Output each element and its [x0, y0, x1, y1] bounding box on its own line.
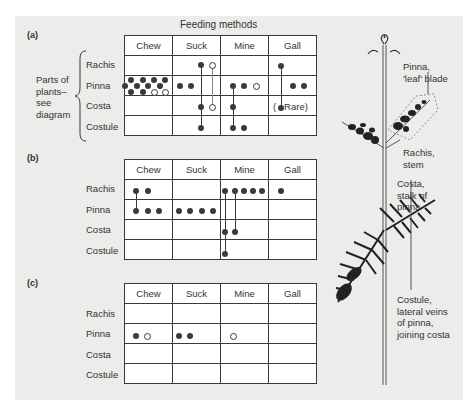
connector-line — [225, 191, 226, 254]
data-dot — [199, 208, 205, 214]
col-header-suck: Suck — [173, 284, 221, 304]
data-dot — [301, 83, 307, 89]
data-dot — [278, 63, 284, 69]
data-dot-open — [151, 89, 158, 96]
panel-a-label: (a) — [27, 30, 38, 40]
row-label-costa: Costa — [86, 224, 111, 235]
col-header-mine: Mine — [221, 284, 269, 304]
costa-label: Costa, stalk of pinna — [397, 178, 427, 213]
data-dot — [222, 188, 228, 194]
data-dot — [187, 333, 193, 339]
data-dot-open — [253, 83, 260, 90]
data-dot — [145, 188, 151, 194]
col-header-chew: Chew — [125, 36, 173, 56]
data-dot-open — [230, 333, 237, 340]
data-dot — [222, 251, 228, 257]
side-label-line: Parts of — [36, 74, 70, 86]
col-header-gall: Gall — [269, 160, 317, 180]
data-dot — [122, 83, 128, 89]
data-dot — [156, 208, 162, 214]
data-dot — [278, 188, 284, 194]
table-b: ChewSuckMineGall — [124, 159, 317, 260]
parts-of-plants-label: Parts of plants– see diagram — [36, 74, 70, 120]
data-dot — [133, 188, 139, 194]
label-line: stalk of — [397, 190, 427, 202]
data-dot — [151, 77, 157, 83]
connector-line — [212, 65, 213, 107]
label-line: pinna — [397, 201, 427, 213]
data-dot — [198, 125, 204, 131]
row-label-rachis: Rachis — [86, 183, 115, 194]
data-dot-open — [162, 89, 169, 96]
col-header-mine: Mine — [221, 160, 269, 180]
data-dot — [230, 83, 236, 89]
fern-illustration — [330, 30, 463, 400]
label-line: lateral veins — [397, 306, 450, 318]
data-dot — [145, 83, 151, 89]
col-header-suck: Suck — [173, 160, 221, 180]
panel-b-label: (b) — [27, 153, 39, 163]
data-dot — [128, 77, 134, 83]
row-label-rachis: Rachis — [86, 308, 115, 319]
feeding-methods-title: Feeding methods — [180, 19, 257, 30]
data-dot — [176, 208, 182, 214]
row-label-costa: Costa — [86, 100, 111, 111]
data-dot — [140, 89, 146, 95]
data-dot — [241, 188, 247, 194]
label-line: of pinna, — [397, 317, 450, 329]
row-label-rachis: Rachis — [86, 59, 115, 70]
data-dot — [241, 83, 247, 89]
data-dot — [157, 83, 163, 89]
data-dot-open — [144, 333, 151, 340]
col-header-chew: Chew — [125, 160, 173, 180]
col-header-mine: Mine — [221, 36, 269, 56]
row-label-pinna: Pinna — [86, 204, 110, 215]
side-label-line: see — [36, 97, 70, 109]
rare-annotation: ( Rare) — [273, 101, 308, 112]
costule-label: Costule, lateral veins of pinna, joining… — [397, 294, 450, 340]
data-dot — [230, 125, 236, 131]
data-dot — [230, 104, 236, 110]
label-line: Pinna, — [403, 61, 448, 73]
data-dot — [133, 208, 139, 214]
label-line: stem — [403, 159, 435, 171]
row-label-costule: Costule — [86, 121, 118, 132]
data-dot — [232, 188, 238, 194]
row-label-pinna: Pinna — [86, 80, 110, 91]
data-dot — [290, 83, 296, 89]
label-line: 'leaf' blade — [403, 73, 448, 85]
data-dot — [128, 89, 134, 95]
data-dot — [241, 125, 247, 131]
col-header-gall: Gall — [269, 36, 317, 56]
data-dot — [250, 188, 256, 194]
data-dot — [140, 77, 146, 83]
data-dot — [176, 333, 182, 339]
data-dot — [198, 104, 204, 110]
data-dot — [133, 333, 139, 339]
connector-line — [235, 191, 236, 232]
data-dot — [188, 83, 194, 89]
data-dot — [198, 62, 204, 68]
data-dot-open — [209, 62, 216, 69]
table-a: ChewSuckMineGall — [124, 35, 317, 136]
data-dot — [177, 83, 183, 89]
data-dot — [259, 188, 265, 194]
data-dot — [210, 208, 216, 214]
col-header-gall: Gall — [269, 284, 317, 304]
side-label-line: diagram — [36, 109, 70, 121]
rachis-label: Rachis, stem — [403, 147, 435, 170]
data-dot — [232, 229, 238, 235]
data-dot — [145, 208, 151, 214]
label-line: Costule, — [397, 294, 450, 306]
row-label-costule: Costule — [86, 245, 118, 256]
data-dot — [162, 77, 168, 83]
col-header-suck: Suck — [173, 36, 221, 56]
pinna-label: Pinna, 'leaf' blade — [403, 61, 448, 84]
row-label-costule: Costule — [86, 369, 118, 380]
panel-c-label: (c) — [27, 278, 38, 288]
data-dot — [187, 208, 193, 214]
row-label-costa: Costa — [86, 349, 111, 360]
data-dot-open — [209, 104, 216, 111]
data-dot — [222, 229, 228, 235]
label-line: Rachis, — [403, 147, 435, 159]
